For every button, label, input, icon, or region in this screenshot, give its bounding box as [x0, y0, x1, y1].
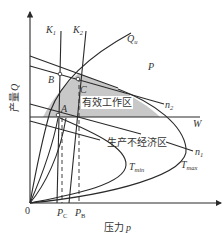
- uneconomic-region-label: 生产不经济区: [107, 136, 167, 148]
- n2-label: n2: [165, 99, 174, 111]
- y-axis-title: 产量 Q: [8, 83, 20, 112]
- w-label: W: [193, 118, 203, 129]
- y-axis-label: 产量: [8, 92, 20, 112]
- origin-label: 0: [25, 205, 30, 216]
- point-c-marker: [76, 77, 80, 81]
- x-axis-label: 压力: [104, 221, 124, 233]
- k2-label: K2: [72, 24, 84, 36]
- point-b-label: B: [48, 74, 54, 85]
- x-axis-symbol: p: [125, 222, 131, 233]
- qu-label: Qu: [127, 33, 138, 45]
- point-a-marker: [56, 113, 60, 117]
- effective-region-label: 有效工作区: [82, 96, 132, 108]
- n1-label: n1: [195, 146, 203, 158]
- point-b-marker: [58, 72, 62, 76]
- n1-leader-line: [166, 142, 193, 151]
- point-c-label: C: [80, 84, 87, 95]
- x-axis-title: 压力 p: [104, 221, 131, 233]
- pc-tick-label: PC: [56, 207, 67, 219]
- tmax-label: Tmax: [181, 159, 198, 171]
- tmin-label: Tmin: [129, 161, 144, 173]
- p-region-label: P: [147, 61, 154, 72]
- operating-region-diagram: B C A K1 K2 Qu n2 W n1 Tmin Tmax 有效工作区 生…: [0, 0, 224, 233]
- y-axis-symbol: Q: [9, 83, 20, 91]
- point-a-label: A: [60, 103, 68, 114]
- pb-tick-label: PB: [74, 207, 86, 219]
- k1-label: K1: [45, 24, 56, 36]
